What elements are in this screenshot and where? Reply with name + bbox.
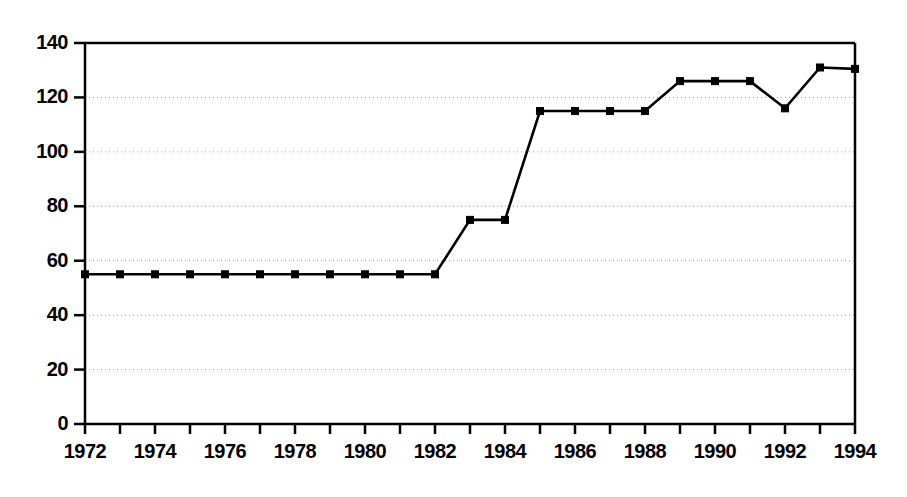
plot-frame bbox=[85, 43, 855, 424]
y-tick-label-140: 140 bbox=[36, 32, 68, 52]
y-tick-label-120: 120 bbox=[36, 86, 68, 106]
y-tick-label-20: 20 bbox=[47, 359, 68, 379]
data-point-1979 bbox=[327, 271, 334, 278]
chart-container: 020406080100120140 197219741976197819801… bbox=[0, 0, 907, 497]
data-point-1993 bbox=[817, 64, 824, 71]
data-point-1991 bbox=[747, 78, 754, 85]
x-tick-label-1982: 1982 bbox=[395, 441, 475, 461]
data-point-1976 bbox=[222, 271, 229, 278]
data-point-1972 bbox=[82, 271, 89, 278]
data-markers-series-1 bbox=[82, 64, 859, 278]
x-tick-label-1990: 1990 bbox=[675, 441, 755, 461]
y-tick-label-0: 0 bbox=[57, 413, 68, 433]
data-point-1987 bbox=[607, 108, 614, 115]
x-tick-label-1992: 1992 bbox=[745, 441, 825, 461]
gridlines-group bbox=[85, 97, 855, 369]
data-point-1980 bbox=[362, 271, 369, 278]
x-tick-label-1988: 1988 bbox=[605, 441, 685, 461]
series-1-polyline bbox=[85, 67, 855, 274]
x-tick-label-1974: 1974 bbox=[115, 441, 195, 461]
x-tick-label-1978: 1978 bbox=[255, 441, 335, 461]
data-point-1973 bbox=[117, 271, 124, 278]
data-point-1985 bbox=[537, 108, 544, 115]
data-point-1975 bbox=[187, 271, 194, 278]
data-point-1992 bbox=[782, 105, 789, 112]
x-tick-label-1972: 1972 bbox=[45, 441, 125, 461]
data-point-1990 bbox=[712, 78, 719, 85]
data-point-1974 bbox=[152, 271, 159, 278]
data-point-1994 bbox=[852, 65, 859, 72]
x-tick-label-1986: 1986 bbox=[535, 441, 615, 461]
data-point-1978 bbox=[292, 271, 299, 278]
x-axis-ticks bbox=[85, 424, 855, 434]
x-tick-label-1984: 1984 bbox=[465, 441, 545, 461]
data-point-1982 bbox=[432, 271, 439, 278]
data-point-1984 bbox=[502, 216, 509, 223]
x-tick-label-1994: 1994 bbox=[815, 441, 895, 461]
data-line-series-1 bbox=[85, 67, 855, 274]
line-chart-plot bbox=[0, 0, 907, 497]
x-tick-label-1980: 1980 bbox=[325, 441, 405, 461]
data-point-1977 bbox=[257, 271, 264, 278]
data-point-1983 bbox=[467, 216, 474, 223]
x-tick-label-1976: 1976 bbox=[185, 441, 265, 461]
y-tick-label-100: 100 bbox=[36, 141, 68, 161]
data-point-1986 bbox=[572, 108, 579, 115]
y-tick-label-80: 80 bbox=[47, 195, 68, 215]
data-point-1989 bbox=[677, 78, 684, 85]
y-tick-label-40: 40 bbox=[47, 304, 68, 324]
data-point-1988 bbox=[642, 108, 649, 115]
data-point-1981 bbox=[397, 271, 404, 278]
y-axis-ticks bbox=[74, 43, 85, 424]
y-tick-label-60: 60 bbox=[47, 250, 68, 270]
